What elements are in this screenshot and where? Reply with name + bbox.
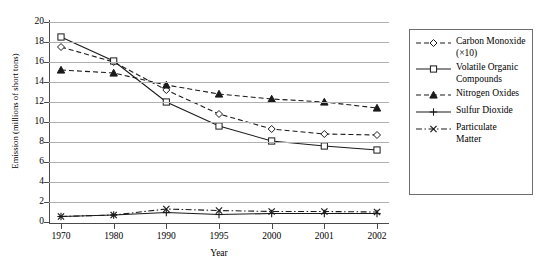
data-point-square bbox=[111, 58, 117, 64]
data-point-square bbox=[321, 143, 327, 149]
legend-label: ParticulateMatter bbox=[454, 122, 497, 145]
gridline bbox=[49, 102, 389, 103]
legend-label: Nitrogen Oxides bbox=[454, 88, 519, 100]
gridline bbox=[49, 82, 389, 83]
legend-key-diamond-icon bbox=[414, 36, 454, 50]
gridline bbox=[49, 122, 389, 123]
x-tick-label: 1990 bbox=[136, 232, 196, 242]
data-point-diamond bbox=[430, 40, 437, 47]
gridline bbox=[49, 162, 389, 163]
gridline bbox=[49, 22, 389, 23]
legend-item-5[interactable]: ParticulateMatter bbox=[414, 122, 528, 145]
data-point-square bbox=[430, 66, 436, 72]
x-tick-label: 2001 bbox=[294, 232, 354, 242]
legend-item-3[interactable]: Nitrogen Oxides bbox=[414, 88, 528, 102]
gridline bbox=[49, 202, 389, 203]
chart-figure: Emission (millions of short tons) 201816… bbox=[0, 0, 539, 277]
x-tick-label: 1995 bbox=[189, 232, 249, 242]
legend-key-triangle-icon bbox=[414, 88, 454, 102]
legend-label: Volatile OrganicCompounds bbox=[454, 62, 518, 85]
x-tick-mark bbox=[166, 224, 167, 229]
plot-area: Emission (millions of short tons) 201816… bbox=[0, 0, 400, 277]
data-point-plus bbox=[215, 211, 222, 218]
legend-key-plus-icon bbox=[414, 105, 454, 119]
x-tick-label: 2002 bbox=[347, 232, 407, 242]
x-tick-mark bbox=[324, 224, 325, 229]
x-tick-label: 2000 bbox=[242, 232, 302, 242]
x-tick-label: 1980 bbox=[84, 232, 144, 242]
data-point-diamond bbox=[268, 126, 275, 133]
legend-key-square-icon bbox=[414, 62, 454, 76]
data-point-diamond bbox=[321, 131, 328, 138]
legend-item-4[interactable]: Sulfur Dioxide bbox=[414, 105, 528, 119]
x-tick-mark bbox=[114, 224, 115, 229]
x-tick-mark bbox=[377, 224, 378, 229]
x-tick-mark bbox=[61, 224, 62, 229]
data-point-plus bbox=[373, 210, 380, 217]
data-point-plus bbox=[163, 209, 170, 216]
legend-key-cross-icon bbox=[414, 122, 454, 136]
legend-label: Sulfur Dioxide bbox=[454, 105, 513, 117]
gridline bbox=[49, 62, 389, 63]
legend-label-line2: Matter bbox=[456, 134, 497, 146]
legend-item-2[interactable]: Volatile OrganicCompounds bbox=[414, 62, 528, 85]
data-point-diamond bbox=[216, 111, 223, 118]
x-tick-mark bbox=[272, 224, 273, 229]
legend-item-1[interactable]: Carbon Monoxide(×10) bbox=[414, 36, 528, 59]
gridline bbox=[49, 142, 389, 143]
x-tick-mark bbox=[219, 224, 220, 229]
data-point-diamond bbox=[58, 44, 65, 51]
y-tick-mark bbox=[44, 222, 49, 223]
data-point-square bbox=[374, 147, 380, 153]
data-point-square bbox=[216, 123, 222, 129]
data-point-square bbox=[269, 138, 275, 144]
legend-label: Carbon Monoxide(×10) bbox=[454, 36, 525, 59]
legend-label-line2: (×10) bbox=[456, 48, 525, 60]
gridline bbox=[49, 42, 389, 43]
series-3 bbox=[57, 66, 380, 111]
data-point-square bbox=[58, 34, 64, 40]
data-point-diamond bbox=[374, 132, 381, 139]
x-axis-title: Year bbox=[49, 248, 389, 258]
legend: Carbon Monoxide(×10)Volatile OrganicComp… bbox=[409, 29, 533, 195]
x-tick-label: 1970 bbox=[31, 232, 91, 242]
data-point-plus bbox=[430, 108, 437, 115]
gridline bbox=[49, 182, 389, 183]
legend-label-line2: Compounds bbox=[456, 74, 518, 86]
